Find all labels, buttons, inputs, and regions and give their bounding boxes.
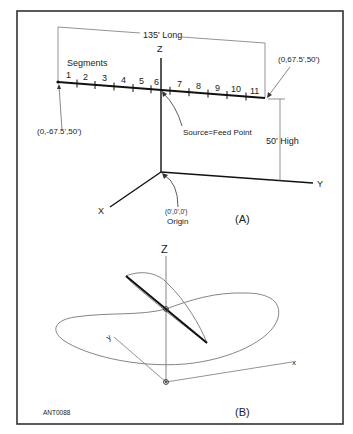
figure-canvas: 135' Long Z Y X Segments 1 xyxy=(0,0,353,434)
segment-number: 10 xyxy=(231,84,241,94)
height-dimension: 50' High xyxy=(266,99,299,181)
left-end-leader xyxy=(59,86,62,130)
origin-coordinate: (0',0',0') xyxy=(165,208,188,216)
b-antenna-wire xyxy=(126,276,207,343)
b-y-axis-line xyxy=(114,337,166,382)
segment-number: 11 xyxy=(250,86,259,96)
right-end-leader xyxy=(269,67,290,95)
length-dimension-label: 135' Long xyxy=(143,30,182,40)
z-axis-label: Z xyxy=(157,44,163,54)
segment-number: 8 xyxy=(196,81,201,91)
panel-b: Z y x (B) xyxy=(56,243,296,418)
segments-label: Segments xyxy=(67,58,108,68)
panel-a-caption: (A) xyxy=(235,213,250,225)
b-x-axis-label: x xyxy=(292,358,296,367)
wire-left-end xyxy=(56,80,59,83)
y-axis-label: Y xyxy=(317,179,323,189)
b-x-axis-line xyxy=(166,362,292,382)
feed-point-label: Source=Feed Point xyxy=(183,128,252,137)
origin-leader xyxy=(164,175,178,207)
origin-label: Origin xyxy=(167,217,188,226)
figure-id-label: ANT0088 xyxy=(43,409,71,416)
b-origin-dot xyxy=(165,381,167,383)
right-end-arrowhead xyxy=(267,92,272,98)
feed-point-leader xyxy=(163,93,182,126)
segment-number: 1 xyxy=(66,70,71,80)
left-end-coordinate: (0,-67.5',50') xyxy=(37,127,82,136)
segment-number: 2 xyxy=(83,72,88,82)
segment-number: 7 xyxy=(177,79,182,89)
left-end-arrowhead xyxy=(57,84,61,89)
segment-number: 6 xyxy=(154,77,159,87)
height-dimension-label: 50' High xyxy=(266,136,299,146)
b-z-axis-label: Z xyxy=(161,243,168,255)
y-axis-line xyxy=(161,172,313,183)
x-axis-label: X xyxy=(98,206,104,216)
antenna-geometry-figure: 135' Long Z Y X Segments 1 xyxy=(0,0,353,434)
right-end-coordinate: (0,67.5',50') xyxy=(278,55,320,64)
radiation-pattern-horizontal-lobe xyxy=(56,293,279,365)
panel-a: 135' Long Z Y X Segments 1 xyxy=(37,27,323,226)
panel-b-caption: (B) xyxy=(235,406,250,418)
segment-number: 4 xyxy=(121,75,126,85)
x-axis-line xyxy=(110,172,161,207)
b-y-axis-label: y xyxy=(104,333,112,343)
segment-number: 5 xyxy=(139,76,144,86)
segment-number: 9 xyxy=(215,83,220,93)
segment-number: 3 xyxy=(102,73,107,83)
origin-arrowhead xyxy=(162,173,168,179)
